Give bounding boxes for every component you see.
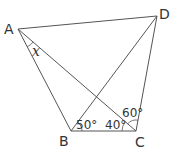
segment-ab [18,29,71,131]
angle-label-c-lower: 40° [105,118,126,132]
vertex-label-b: B [59,133,69,149]
angle-label-x: x [32,43,40,59]
angle-label-b: 50° [76,118,97,132]
segment-ad [18,16,157,29]
vertex-label-a: A [4,21,14,37]
vertex-label-d: D [159,6,170,22]
vertex-label-c: C [135,134,145,150]
diagonal-bd [71,16,157,131]
angle-arc-c-upper [128,120,138,124]
geometry-diagram: A D B C 50° 40° 60° x [0,0,176,152]
angle-label-c-upper: 60° [122,106,143,120]
